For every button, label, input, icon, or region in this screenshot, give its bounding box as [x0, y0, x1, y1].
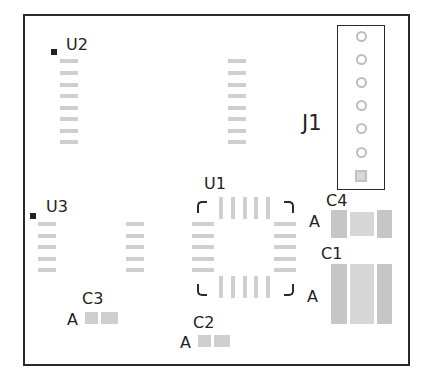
pin1-marker-u2 — [51, 49, 57, 55]
c2-pad — [198, 335, 211, 347]
polarity-label-c3: A — [67, 312, 78, 328]
j1-pin-hole — [356, 31, 367, 42]
ref-label-c4: C4 — [326, 193, 347, 209]
j1-pin1-square-pad — [355, 170, 367, 182]
j1-pin-hole — [356, 54, 367, 65]
ref-label-j1: J1 — [302, 113, 322, 134]
ref-label-c2: C2 — [193, 315, 214, 331]
c3-pad — [101, 312, 118, 324]
c1-pad — [331, 264, 347, 324]
ref-label-u1: U1 — [204, 176, 226, 192]
ref-label-c3: C3 — [82, 291, 103, 307]
j1-pin-hole — [356, 77, 367, 88]
u1-corner-tl — [197, 201, 207, 213]
c2-pad — [214, 335, 230, 347]
polarity-label-c2: A — [180, 335, 191, 351]
j1-pin-hole — [356, 147, 367, 158]
c1-pad — [377, 264, 392, 324]
j1-pin-hole — [356, 100, 367, 111]
c4-pad — [350, 212, 374, 236]
ref-label-c1: C1 — [321, 246, 342, 262]
u1-corner-br — [284, 284, 294, 296]
ref-label-u3: U3 — [46, 199, 68, 215]
polarity-label-c1: A — [307, 289, 318, 305]
c4-pad — [331, 210, 347, 238]
c3-pad — [85, 312, 98, 324]
j1-pin-hole — [356, 123, 367, 134]
c1-pad — [350, 264, 374, 324]
u1-corner-tr — [284, 201, 294, 213]
c4-pad — [377, 210, 392, 238]
u1-corner-bl — [197, 284, 207, 296]
pin1-marker-u3 — [30, 213, 36, 219]
ref-label-u2: U2 — [66, 37, 88, 53]
polarity-label-c4: A — [309, 214, 320, 230]
